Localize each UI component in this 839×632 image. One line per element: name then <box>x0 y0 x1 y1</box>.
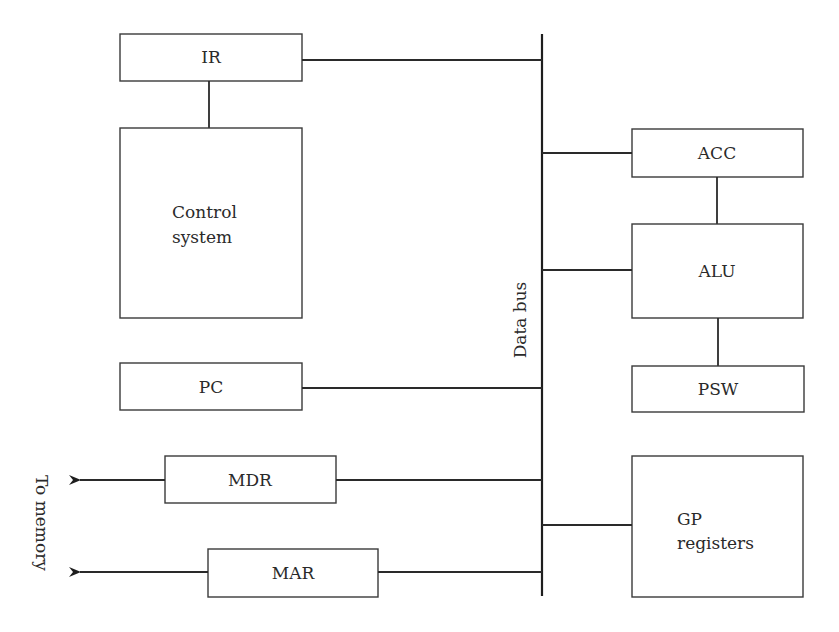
cpu-diagram: Data bus IR Control system PC MDR MAR To… <box>0 0 839 632</box>
psw-label: PSW <box>698 379 739 399</box>
to-memory-label: To memory <box>32 475 52 571</box>
control-label-line1: Control <box>172 202 237 222</box>
acc-label: ACC <box>697 143 736 163</box>
gp-label-line2: registers <box>677 533 754 553</box>
pc-label: PC <box>199 377 223 397</box>
data-bus-label: Data bus <box>510 282 530 359</box>
control-label-line2: system <box>172 227 232 247</box>
pc-block: PC <box>120 363 302 410</box>
ir-block: IR <box>120 34 302 81</box>
mar-block: MAR <box>208 549 378 597</box>
acc-block: ACC <box>632 129 803 177</box>
psw-block: PSW <box>632 366 804 412</box>
ir-label: IR <box>201 47 222 67</box>
mar-label: MAR <box>272 563 316 583</box>
control-system-block: Control system <box>120 128 302 318</box>
alu-label: ALU <box>698 261 736 281</box>
mdr-block: MDR <box>165 456 336 503</box>
gp-label-line1: GP <box>677 509 702 529</box>
gp-registers-block: GP registers <box>632 456 803 597</box>
alu-block: ALU <box>632 224 803 318</box>
mdr-label: MDR <box>228 470 273 490</box>
